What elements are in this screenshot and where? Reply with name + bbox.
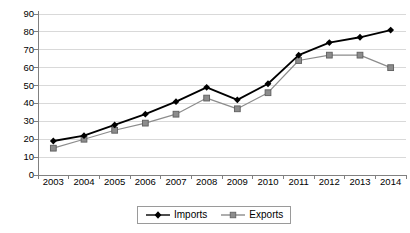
y-tick-label: 60 [2, 63, 34, 73]
legend-marker-imports-icon [145, 210, 171, 220]
x-axis-tick-labels: 2003200420052006200720082009201020112012… [0, 176, 410, 194]
plot-canvas [0, 0, 410, 200]
legend-item-exports[interactable]: Exports [220, 209, 283, 220]
chart-legend: Imports Exports [137, 206, 291, 224]
y-tick-label: 10 [2, 152, 34, 162]
series-exports [50, 52, 393, 151]
y-axis-tick-labels: 0102030405060708090 [0, 0, 34, 200]
y-tick-label: 70 [2, 45, 34, 55]
y-tick-label: 80 [2, 27, 34, 37]
legend-item-imports[interactable]: Imports [145, 209, 207, 220]
y-tick-label: 90 [2, 9, 34, 19]
y-tick-label: 50 [2, 81, 34, 91]
y-tick-label: 30 [2, 116, 34, 126]
legend-label-imports: Imports [174, 209, 207, 220]
y-axis-line [34, 11, 38, 175]
plot-area: 0102030405060708090 [0, 0, 410, 200]
legend-marker-exports-icon [220, 210, 246, 220]
line-chart: 0102030405060708090 20032004200520062007… [0, 0, 410, 233]
y-tick-label: 20 [2, 134, 34, 144]
legend-label-exports: Exports [249, 209, 283, 220]
x-tick-label: 2014 [371, 176, 410, 187]
y-tick-label: 40 [2, 98, 34, 108]
